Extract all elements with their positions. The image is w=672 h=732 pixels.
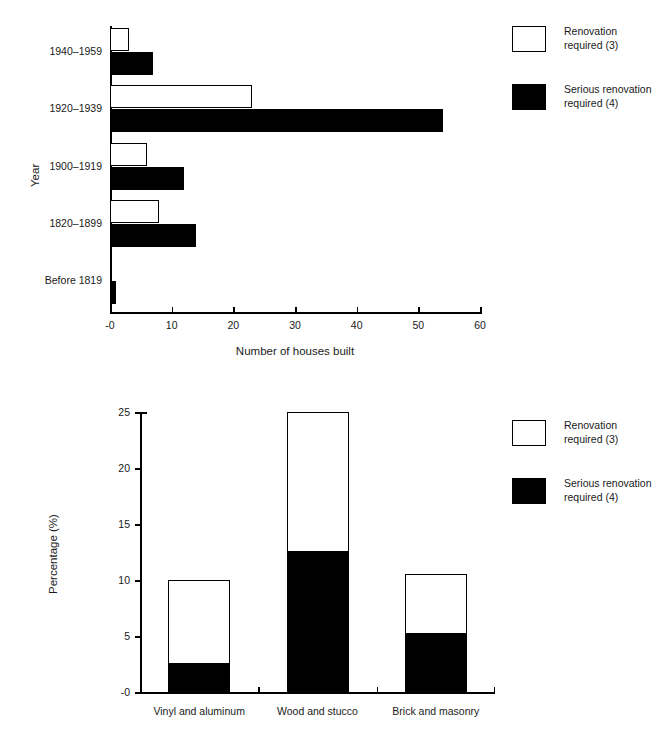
bar-open — [110, 28, 129, 51]
legend-label-line2: required (4) — [564, 491, 672, 505]
y-axis-tick — [135, 468, 140, 470]
y-axis-tick-label: -0 — [0, 687, 130, 698]
y-axis-tick — [135, 524, 140, 526]
y-axis-tick — [135, 636, 140, 638]
y-axis-tick — [135, 692, 140, 694]
x-axis-tick — [295, 307, 297, 312]
legend-label-line1: Renovation — [564, 25, 672, 39]
bar-open — [110, 85, 252, 108]
legend-label-renovation: Renovation required (3) — [564, 25, 672, 52]
bar-open — [110, 200, 159, 223]
bar-filled — [110, 109, 443, 132]
bar-filled — [110, 167, 184, 190]
legend-swatch-filled-icon — [512, 84, 546, 110]
x-axis-tick — [233, 307, 235, 312]
bar-open — [168, 580, 230, 664]
bar-filled — [110, 224, 196, 247]
figure-percentage-by-siding: -0510152025Percentage (%)Vinyl and alumi… — [0, 380, 672, 732]
x-axis-line — [110, 312, 482, 314]
x-axis-tick-label: 40 — [343, 320, 371, 331]
x-axis-tick-label: -0 — [96, 320, 124, 331]
x-axis-category-label: Brick and masonry — [377, 706, 495, 717]
y-axis-line — [140, 412, 142, 694]
y-axis-category-label: 1940–1959 — [0, 46, 102, 57]
legend-label-line2: required (3) — [564, 433, 672, 447]
y-axis-tick-label: 25 — [0, 407, 130, 418]
y-axis-category-label: 1920–1939 — [0, 103, 102, 114]
x-axis-right-cap — [494, 687, 496, 692]
x-axis-left-cap — [140, 687, 142, 692]
x-axis-line — [140, 692, 495, 694]
legend-swatch-filled-icon — [512, 478, 546, 504]
bar-open — [110, 143, 147, 166]
legend-swatch-open-icon — [512, 420, 546, 446]
y-axis-tick-label: 20 — [0, 463, 130, 474]
y-axis-title: Percentage (%) — [48, 514, 60, 594]
y-axis-tick — [135, 580, 140, 582]
bar-filled — [110, 52, 153, 75]
legend-label-line1: Serious renovation — [564, 83, 672, 97]
legend-label-line2: required (3) — [564, 39, 672, 53]
x-axis-tick-label: 50 — [404, 320, 432, 331]
x-axis-tick — [357, 307, 359, 312]
y-axis-tick-label: 10 — [0, 575, 130, 586]
x-axis-tick-label: 10 — [158, 320, 186, 331]
plot-area-top: -0102030405060Number of houses builtYear… — [0, 0, 520, 380]
bar-filled — [405, 634, 467, 692]
legend-label-line1: Serious renovation — [564, 477, 672, 491]
y-axis-category-label: 1820–1899 — [0, 218, 102, 229]
y-axis-category-label: Before 1819 — [0, 275, 102, 286]
y-axis-tick-label: 15 — [0, 519, 130, 530]
x-axis-tick — [480, 307, 482, 312]
bar-filled — [110, 281, 116, 304]
legend-label-renovation: Renovation required (3) — [564, 419, 672, 446]
x-axis-tick — [110, 307, 112, 312]
x-axis-tick-label: 60 — [466, 320, 494, 331]
bar-filled — [287, 552, 349, 692]
bar-open — [287, 412, 349, 552]
x-axis-tick-label: 30 — [281, 320, 309, 331]
y-axis-top-cap — [140, 412, 147, 414]
legend-label-line1: Renovation — [564, 419, 672, 433]
x-axis-category-tick — [377, 687, 379, 692]
x-axis-category-label: Vinyl and aluminum — [140, 706, 258, 717]
legend-label-line2: required (4) — [564, 97, 672, 111]
x-axis-title: Number of houses built — [110, 346, 480, 358]
x-axis-tick — [172, 307, 174, 312]
x-axis-tick-label: 20 — [219, 320, 247, 331]
y-axis-category-label: 1900–1919 — [0, 161, 102, 172]
bar-filled — [168, 664, 230, 692]
plot-area-bottom: -0510152025Percentage (%)Vinyl and alumi… — [0, 380, 520, 732]
bar-open — [405, 574, 467, 633]
legend-top: Renovation required (3) Serious renovati… — [512, 26, 672, 136]
legend-label-serious-renovation: Serious renovation required (4) — [564, 83, 672, 110]
legend-swatch-open-icon — [512, 26, 546, 52]
legend-label-serious-renovation: Serious renovation required (4) — [564, 477, 672, 504]
y-axis-tick-label: 5 — [0, 631, 130, 642]
legend-bottom: Renovation required (3) Serious renovati… — [512, 420, 672, 530]
x-axis-category-label: Wood and stucco — [258, 706, 376, 717]
x-axis-tick — [418, 307, 420, 312]
x-axis-category-tick — [258, 687, 260, 692]
figure-houses-built: -0102030405060Number of houses builtYear… — [0, 0, 672, 380]
